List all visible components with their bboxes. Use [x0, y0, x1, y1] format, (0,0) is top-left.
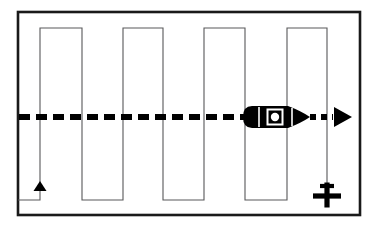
conning-tower-hatch-icon [271, 113, 279, 121]
figure-root: Aircraft ladder search pattern over a ve… [0, 0, 378, 230]
search-pattern-diagram [0, 0, 378, 230]
aircraft-tailplane [320, 184, 334, 188]
aircraft-main-wing [313, 193, 341, 198]
